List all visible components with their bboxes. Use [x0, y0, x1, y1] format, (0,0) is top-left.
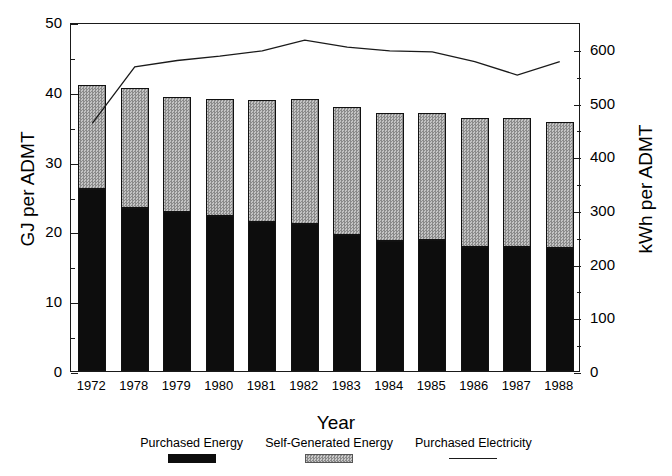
y-axis-left-major-tick: [71, 24, 78, 25]
legend-label: Purchased Electricity: [415, 437, 532, 450]
legend-swatch-purchased-energy: [168, 454, 216, 463]
y-axis-right-minor-tick: [577, 131, 581, 132]
y-axis-left-tick-label: 20: [18, 223, 62, 240]
y-axis-right-minor-tick: [577, 239, 581, 240]
line-series-layer: [71, 24, 581, 373]
y-axis-left-minor-tick: [71, 199, 75, 200]
x-axis-tick-label: 1978: [113, 378, 156, 393]
x-axis-tick-label: 1987: [495, 378, 538, 393]
y-axis-right-minor-tick: [577, 78, 581, 79]
legend-swatch-self-generated-energy: [305, 454, 353, 463]
y-axis-left-major-tick: [71, 373, 78, 374]
y-axis-right-major-tick: [574, 212, 581, 213]
y-axis-right-minor-tick: [577, 185, 581, 186]
x-axis-tick-label: 1981: [240, 378, 283, 393]
y-axis-left-major-tick: [71, 233, 78, 234]
plot-area: [70, 23, 580, 372]
y-axis-title-right: kWh per ADMT: [635, 89, 657, 289]
y-axis-left-major-tick: [71, 164, 78, 165]
y-axis-right-tick-label: 300: [590, 202, 636, 219]
x-axis-tick-label: 1986: [453, 378, 496, 393]
y-axis-right-major-tick: [574, 373, 581, 374]
y-axis-right-major-tick: [574, 158, 581, 159]
x-axis-tick-label: 1979: [155, 378, 198, 393]
x-axis-tick-label: 1983: [325, 378, 368, 393]
y-axis-right-tick-label: 100: [590, 309, 636, 326]
y-axis-right-tick-label: 200: [590, 256, 636, 273]
y-axis-right-major-tick: [574, 51, 581, 52]
purchased-electricity-line: [92, 40, 560, 123]
y-axis-left-tick-label: 50: [18, 14, 62, 31]
legend-item: Purchased Energy: [140, 437, 243, 463]
y-axis-right-tick-label: 400: [590, 148, 636, 165]
y-axis-left-tick-label: 40: [18, 84, 62, 101]
y-axis-left-major-tick: [71, 94, 78, 95]
y-axis-left-minor-tick: [71, 338, 75, 339]
x-axis-tick-label: 1972: [70, 378, 113, 393]
x-axis-tick-label: 1982: [283, 378, 326, 393]
x-axis-title: Year: [0, 412, 672, 434]
y-axis-right-minor-tick: [577, 346, 581, 347]
y-axis-right-minor-tick: [577, 292, 581, 293]
y-axis-right-tick-label: 500: [590, 95, 636, 112]
x-axis-tick-label: 1988: [538, 378, 581, 393]
y-axis-left-tick-label: 10: [18, 293, 62, 310]
y-axis-left-tick-label: 0: [18, 363, 62, 380]
chart-legend: Purchased EnergySelf-Generated EnergyPur…: [0, 437, 672, 463]
y-axis-right-major-tick: [574, 319, 581, 320]
x-axis-tick-label: 1980: [198, 378, 241, 393]
y-axis-left-major-tick: [71, 303, 78, 304]
y-axis-right-tick-label: 0: [590, 363, 636, 380]
y-axis-left-minor-tick: [71, 59, 75, 60]
x-axis-tick-label: 1984: [368, 378, 411, 393]
legend-item: Purchased Electricity: [415, 437, 532, 463]
legend-item: Self-Generated Energy: [265, 437, 393, 463]
energy-intensity-chart: GJ per ADMT kWh per ADMT Year 0102030405…: [0, 0, 672, 476]
y-axis-left-tick-label: 30: [18, 154, 62, 171]
legend-label: Purchased Energy: [140, 437, 243, 450]
x-axis-tick-label: 1985: [410, 378, 453, 393]
y-axis-right-tick-label: 600: [590, 41, 636, 58]
y-axis-right-major-tick: [574, 266, 581, 267]
y-axis-left-minor-tick: [71, 129, 75, 130]
y-axis-title-left: GJ per ADMT: [17, 89, 39, 289]
legend-swatch-purchased-electricity: [449, 454, 497, 463]
y-axis-left-minor-tick: [71, 268, 75, 269]
legend-label: Self-Generated Energy: [265, 437, 393, 450]
y-axis-right-major-tick: [574, 105, 581, 106]
